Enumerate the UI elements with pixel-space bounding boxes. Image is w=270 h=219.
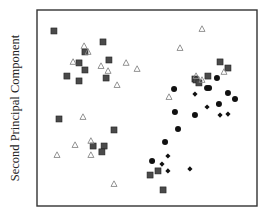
- point-open-triangle-2: [70, 59, 76, 65]
- point-open-triangle-15: [177, 45, 183, 51]
- point-filled-circle-6: [216, 101, 222, 107]
- point-filled-circle-2: [206, 85, 212, 91]
- point-open-triangle-0: [81, 43, 87, 49]
- point-filled-circle-10: [162, 139, 168, 145]
- point-filled-diamond-7: [187, 166, 192, 171]
- point-filled-square-15: [225, 65, 231, 71]
- point-open-triangle-13: [111, 181, 117, 187]
- point-open-triangle-19: [166, 94, 172, 100]
- point-filled-circle-7: [172, 109, 178, 115]
- point-filled-diamond-6: [165, 168, 170, 173]
- point-filled-square-14: [217, 59, 223, 65]
- point-filled-diamond-2: [217, 112, 222, 117]
- point-filled-circle-4: [225, 90, 231, 96]
- point-open-triangle-10: [72, 142, 78, 148]
- point-filled-circle-3: [171, 86, 177, 92]
- point-open-triangle-11: [54, 152, 60, 158]
- point-filled-square-5: [82, 67, 88, 73]
- point-filled-square-8: [76, 78, 82, 84]
- point-filled-diamond-4: [165, 153, 170, 158]
- point-open-triangle-8: [80, 114, 86, 120]
- point-filled-square-16: [205, 73, 211, 79]
- point-filled-diamond-0: [192, 91, 197, 96]
- point-filled-square-12: [101, 143, 107, 149]
- point-filled-square-21: [147, 172, 153, 178]
- point-filled-square-10: [111, 127, 117, 133]
- point-filled-square-11: [90, 143, 96, 149]
- point-filled-circle-8: [192, 112, 198, 118]
- point-filled-square-9: [56, 116, 62, 122]
- point-filled-square-4: [76, 60, 82, 66]
- point-filled-square-19: [196, 80, 202, 86]
- point-open-triangle-12: [88, 152, 94, 158]
- point-filled-square-13: [99, 149, 105, 155]
- point-filled-square-22: [160, 187, 166, 193]
- point-open-triangle-6: [105, 68, 111, 74]
- point-filled-square-20: [155, 168, 161, 174]
- point-filled-square-7: [103, 75, 109, 81]
- point-filled-diamond-5: [159, 161, 164, 166]
- point-open-triangle-3: [123, 60, 129, 66]
- point-filled-square-1: [100, 39, 106, 45]
- y-axis-label: Second Principal Component: [8, 34, 22, 181]
- point-filled-square-0: [51, 28, 57, 34]
- point-filled-square-3: [106, 57, 112, 63]
- point-filled-circle-5: [232, 96, 238, 102]
- point-filled-circle-11: [149, 158, 155, 164]
- point-filled-circle-9: [175, 126, 181, 132]
- point-filled-square-6: [64, 73, 70, 79]
- point-open-triangle-9: [88, 138, 94, 144]
- point-open-triangle-14: [199, 26, 205, 32]
- point-open-triangle-7: [114, 82, 120, 88]
- point-filled-diamond-1: [204, 104, 209, 109]
- data-points: [51, 26, 238, 193]
- point-open-triangle-5: [98, 63, 104, 69]
- scatter-chart: Second Principal Component: [0, 0, 270, 219]
- point-filled-circle-0: [214, 75, 220, 81]
- point-filled-diamond-3: [225, 111, 230, 116]
- point-open-triangle-4: [134, 66, 140, 72]
